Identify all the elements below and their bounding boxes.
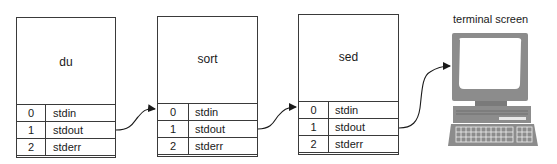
computer-terminal-icon	[448, 33, 538, 146]
diagram-overlay	[0, 0, 557, 164]
pipe-arrow-du-to-sort	[116, 109, 155, 130]
pipe-arrow-sort-to-sed	[258, 107, 296, 129]
pipe-arrow-sed-to-terminal	[399, 66, 450, 128]
